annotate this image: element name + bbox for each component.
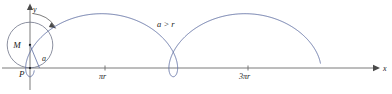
center-label-m: M	[12, 40, 21, 50]
x-axis-label: x	[382, 64, 387, 73]
tracing-point-dot	[29, 67, 31, 69]
tick-label-3pir: 3πr	[238, 72, 251, 81]
tick-label-pir: πr	[99, 72, 107, 81]
x-axis-arrowhead	[373, 65, 380, 71]
angle-label-a: a	[42, 54, 46, 63]
cycloid-diagram-canvas: x y πr 3πr M a	[0, 0, 392, 94]
x-axis-group: x	[2, 64, 387, 73]
annotation-a-greater-than-r: a > r	[157, 19, 175, 29]
tracing-point-label-p: P	[18, 69, 25, 79]
tracing-point-group: P	[18, 67, 31, 79]
y-axis-label: y	[32, 5, 37, 14]
y-axis-group: y	[27, 4, 37, 91]
radius-segment-mp	[30, 45, 40, 68]
cycloid-figure: x y πr 3πr M a	[0, 0, 392, 94]
rotation-arrow-group	[33, 14, 56, 29]
